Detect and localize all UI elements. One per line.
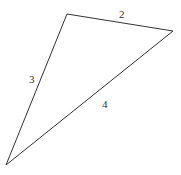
edge-label-left: 3: [29, 73, 35, 85]
edge-label-hypotenuse: 4: [102, 98, 108, 110]
edge-left: [6, 14, 67, 165]
edge-label-top: 2: [119, 8, 125, 20]
edge-hypotenuse: [6, 31, 173, 165]
triangle-diagram: 2 3 4: [0, 0, 181, 175]
